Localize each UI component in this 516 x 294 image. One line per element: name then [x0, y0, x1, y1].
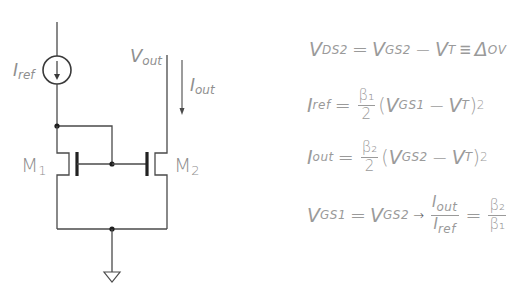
- eq-exponent: 2: [480, 151, 488, 163]
- eq-subscript: T: [465, 151, 473, 163]
- eq-term: V: [372, 40, 385, 59]
- eq-paren: ): [473, 148, 480, 167]
- iout-arrowhead-icon: [180, 108, 185, 115]
- fraction-numerator: β₂: [488, 198, 506, 214]
- equation-ratio: VGS1 = VGS2 → Iout Iref = β₂ β₁: [307, 195, 509, 235]
- eq-paren: ): [469, 96, 476, 115]
- eq-term: V: [449, 96, 462, 115]
- eq-operator: =: [466, 206, 482, 225]
- eq-subscript: GS2: [385, 44, 411, 56]
- label-iout: Iout: [190, 75, 216, 97]
- eq-term: V: [435, 40, 448, 59]
- eq-subscript: ref: [313, 99, 331, 111]
- eq-subscript: GS2: [383, 209, 409, 221]
- eq-operator: −: [415, 40, 431, 59]
- eq-term: Δ: [475, 40, 488, 59]
- eq-exponent: 2: [477, 99, 485, 111]
- eq-paren: (: [381, 148, 388, 167]
- eq-operator: =: [350, 206, 366, 225]
- equation-vds2: VDS2 = VGS2 − VT ≡ ΔOV: [309, 40, 507, 59]
- fraction-denominator: 2: [364, 159, 376, 175]
- eq-operator: =: [352, 40, 368, 59]
- eq-subscript: DS2: [322, 44, 348, 56]
- eq-fraction: β₁ 2: [358, 88, 376, 123]
- eq-fraction: Iout Iref: [431, 195, 459, 235]
- eq-subscript: T: [462, 99, 470, 111]
- eq-term: V: [389, 148, 402, 167]
- eq-subscript: GS1: [320, 209, 346, 221]
- transistor-m2: [112, 55, 167, 229]
- fraction-denominator: Iref: [433, 217, 457, 236]
- eq-term: V: [309, 40, 322, 59]
- eq-subscript: ref: [438, 222, 456, 236]
- ground-icon: [104, 272, 120, 282]
- eq-subscript: out: [313, 151, 334, 163]
- eq-paren: (: [378, 96, 385, 115]
- fraction-numerator: β₁: [358, 88, 376, 104]
- eq-subscript: T: [448, 44, 456, 56]
- label-m1: M1: [21, 153, 47, 178]
- equation-iout: Iout = β₂ 2 ( VGS2 − VT )2: [307, 140, 488, 175]
- label-iref: Iref: [13, 60, 36, 82]
- eq-subscript: GS2: [402, 151, 428, 163]
- eq-term: V: [452, 148, 465, 167]
- diode-connect-wire: [57, 126, 112, 164]
- eq-operator: −: [429, 96, 445, 115]
- current-arrow-icon: [54, 74, 60, 80]
- equation-iref: Iref = β₁ 2 ( VGS1 − VT )2: [307, 88, 484, 123]
- transistor-m1: [57, 126, 112, 229]
- eq-term: V: [307, 206, 320, 225]
- eq-fraction: β₂ 2: [361, 140, 379, 175]
- eq-subscript: out: [436, 200, 457, 214]
- eq-subscript: GS1: [399, 99, 425, 111]
- eq-operator: =: [335, 96, 351, 115]
- eq-operator: −: [432, 148, 448, 167]
- implies-arrow-icon: →: [413, 209, 424, 222]
- fraction-denominator: 2: [361, 107, 373, 123]
- current-source-iref: [43, 56, 71, 84]
- eq-operator: ≡: [460, 40, 471, 59]
- fraction-numerator: β₂: [361, 140, 379, 156]
- eq-term: V: [386, 96, 399, 115]
- eq-fraction: β₂ β₁: [488, 198, 506, 233]
- eq-subscript: OV: [488, 44, 507, 56]
- fraction-numerator: Iout: [431, 195, 459, 214]
- fraction-denominator: β₁: [488, 217, 506, 233]
- label-vout: Vout: [130, 45, 163, 68]
- eq-operator: =: [338, 148, 354, 167]
- label-m2: M2: [174, 153, 200, 178]
- eq-term: V: [370, 206, 383, 225]
